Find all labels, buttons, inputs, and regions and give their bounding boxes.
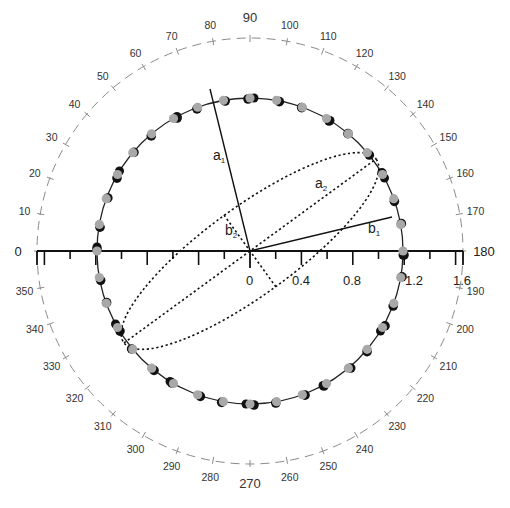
angle-label-210: 210	[440, 360, 458, 372]
angle-label-40: 40	[69, 98, 81, 110]
angle-label-150: 150	[440, 131, 458, 143]
data-point	[147, 364, 159, 376]
angle-label-280: 280	[201, 471, 219, 483]
data-point	[219, 96, 230, 106]
angle-label-180: 180	[473, 244, 495, 259]
angle-label-250: 250	[320, 460, 338, 472]
angle-label-60: 60	[130, 47, 142, 59]
angle-label-100: 100	[281, 19, 299, 31]
data-point	[376, 321, 390, 335]
label-b1: b1	[368, 220, 381, 238]
angle-label-320: 320	[66, 392, 84, 404]
angle-label-290: 290	[163, 460, 181, 472]
axis-label-0: 0	[246, 273, 253, 288]
data-point	[377, 168, 389, 182]
angle-label-50: 50	[97, 70, 109, 82]
axis-label-1.2: 1.2	[405, 273, 423, 288]
data-point	[95, 220, 105, 232]
data-point	[298, 390, 310, 400]
angle-label-10: 10	[19, 205, 31, 217]
label-b2: b2	[225, 222, 238, 240]
angle-label-270: 270	[239, 476, 261, 491]
data-point	[242, 399, 259, 409]
angle-label-110: 110	[320, 30, 337, 42]
data-point	[193, 390, 205, 401]
angle-label-80: 80	[204, 19, 216, 31]
data-point	[322, 114, 335, 126]
angle-label-350: 350	[16, 285, 34, 297]
label-a2: a2	[315, 175, 328, 193]
data-point	[344, 363, 356, 373]
angle-label-140: 140	[417, 98, 435, 110]
angle-label-220: 220	[417, 392, 435, 404]
data-point	[128, 147, 139, 157]
data-point	[389, 194, 399, 206]
data-point	[396, 219, 406, 229]
data-point	[217, 397, 228, 407]
axis-label-0.4: 0.4	[292, 273, 310, 288]
angle-label-130: 130	[388, 70, 406, 82]
data-point	[243, 93, 258, 103]
data-point	[398, 246, 408, 259]
angle-label-240: 240	[356, 443, 374, 455]
data-point	[146, 129, 156, 141]
data-point	[362, 345, 372, 357]
data-point	[112, 167, 124, 183]
axis-label-1.6: 1.6	[453, 273, 471, 288]
angle-label-340: 340	[26, 323, 44, 335]
data-point	[102, 298, 112, 308]
angle-label-170: 170	[467, 205, 485, 217]
angle-label-30: 30	[46, 131, 58, 143]
label-a1: a1	[213, 147, 226, 165]
data-point	[297, 103, 307, 113]
angle-label-300: 300	[127, 443, 145, 455]
data-point	[102, 193, 113, 203]
angle-label-70: 70	[166, 30, 178, 42]
angle-label-260: 260	[281, 471, 299, 483]
angle-label-200: 200	[456, 323, 474, 335]
data-point	[343, 129, 353, 139]
angle-label-310: 310	[94, 420, 112, 432]
angle-label-230: 230	[388, 420, 406, 432]
angle-label-160: 160	[456, 167, 474, 179]
data-point	[192, 103, 202, 114]
polar-diagram: 1020304050607080901001101201301401501601…	[0, 0, 510, 508]
data-point	[92, 243, 102, 256]
angle-label-120: 120	[356, 47, 374, 59]
data-point	[388, 299, 398, 311]
data-point	[363, 148, 375, 160]
data-point	[272, 96, 284, 107]
angle-label-0: 0	[14, 244, 21, 259]
angle-label-20: 20	[29, 167, 41, 179]
angle-label-330: 330	[43, 360, 61, 372]
data-point	[166, 377, 179, 388]
angle-label-90: 90	[243, 10, 257, 25]
data-point	[271, 397, 281, 408]
axis-label-0.8: 0.8	[343, 273, 361, 288]
data-point	[319, 379, 332, 391]
data-point	[169, 112, 182, 123]
data-point	[127, 344, 138, 354]
data-point	[95, 273, 106, 285]
